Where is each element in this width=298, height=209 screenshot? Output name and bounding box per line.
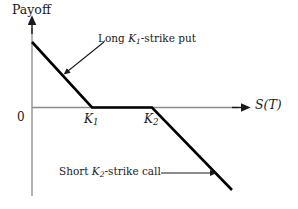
short-call-suffix: -strike call [105, 165, 161, 177]
k1-symbol: K [84, 112, 93, 126]
long-put-annotation-arrow [68, 42, 104, 71]
y-axis-label: Payoff [12, 4, 51, 17]
long-put-annotation-label: Long K1-strike put [98, 33, 196, 45]
k2-subscript: 2 [153, 117, 159, 127]
x-tick-label-k2: K2 [144, 113, 158, 127]
short-call-strike-symbol: K [92, 165, 100, 177]
long-put-prefix: Long [98, 32, 128, 44]
long-put-strike-symbol: K [128, 32, 136, 44]
x-tick-label-k1: K1 [84, 113, 98, 127]
long-put-suffix: -strike put [141, 32, 196, 44]
short-call-annotation-label: Short K2-strike call [59, 166, 161, 178]
x-axis-label-variable: S [255, 97, 264, 112]
k1-subscript: 1 [93, 117, 99, 127]
x-axis-label-argument: (T) [264, 97, 282, 112]
short-call-prefix: Short [59, 165, 92, 177]
origin-tick-label: 0 [17, 111, 25, 123]
x-axis-label: S(T) [255, 99, 282, 112]
payoff-diagram-figure: Payoff S(T) 0 K1 K2 Long K1-strike put S… [0, 0, 298, 209]
k2-symbol: K [144, 112, 153, 126]
